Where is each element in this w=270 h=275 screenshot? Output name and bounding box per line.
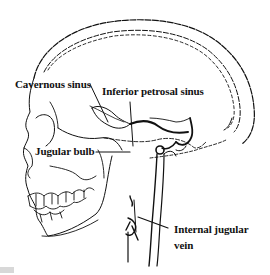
label-jugular-bulb: Jugular bulb [35,145,94,157]
internal-jugular-vein [149,154,157,266]
label-cavernous-sinus: Cavernous sinus [15,78,91,90]
anatomy-diagram: Cavernous sinus Inferior petrosal sinus … [0,0,270,275]
label-internal-jugular-vein-line2: vein [174,239,193,251]
teeth [28,188,94,222]
orbit [36,115,55,146]
mandible [40,156,112,236]
label-internal-jugular-vein: Internal jugular [174,223,249,235]
petrosal-region [130,121,188,133]
corner-artifact [0,267,14,273]
label-inferior-petrosal-sinus: Inferior petrosal sinus [102,85,204,97]
jugular-bulb-shape [156,146,164,154]
